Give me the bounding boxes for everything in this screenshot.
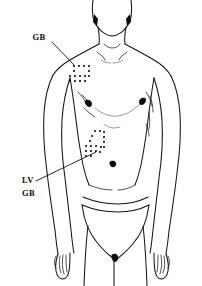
point-dot <box>84 75 86 77</box>
point-dot <box>103 146 105 148</box>
point-dot <box>69 80 71 82</box>
label-gb-lower: GB <box>22 188 35 198</box>
point-dot <box>74 80 76 82</box>
point-dot <box>79 75 81 77</box>
point-dot <box>85 150 87 152</box>
point-dot <box>100 146 102 148</box>
torso-acupuncture-diagram: GB LV GB <box>0 0 202 286</box>
point-dot <box>74 75 76 77</box>
point-dot <box>90 145 92 147</box>
point-dot <box>99 130 101 132</box>
diagram-canvas: GB LV GB <box>0 0 202 286</box>
point-dot <box>95 145 97 147</box>
label-lv-lower: LV <box>22 175 34 185</box>
point-dot <box>85 145 87 147</box>
point-dot <box>88 75 90 77</box>
point-dot <box>83 65 85 67</box>
canvas-background <box>0 0 202 286</box>
point-dot <box>103 131 105 133</box>
point-dot <box>103 141 105 143</box>
point-dot <box>73 70 75 72</box>
point-dot <box>99 151 101 153</box>
point-dot <box>91 135 93 137</box>
point-dot <box>103 136 105 138</box>
point-dot <box>90 150 92 152</box>
point-dot <box>94 130 96 132</box>
point-dot <box>89 140 91 142</box>
point-dot <box>88 65 90 67</box>
point-dot <box>88 70 90 72</box>
point-dot <box>78 65 80 67</box>
label-gb-upper: GB <box>33 32 46 42</box>
point-dot <box>79 80 81 82</box>
point-dot <box>84 80 86 82</box>
point-dot <box>69 75 71 77</box>
